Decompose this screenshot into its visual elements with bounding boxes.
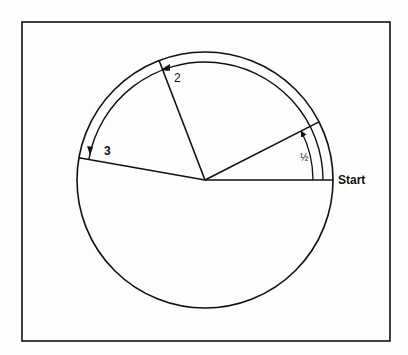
radius-line-2 (159, 61, 205, 181)
radius-line-1 (205, 122, 319, 180)
radius-line-3 (79, 158, 205, 180)
rotation-diagram: 2 3 ½ Start (0, 0, 408, 355)
arrowhead-3-icon (87, 146, 93, 155)
label-step-half: ½ (300, 152, 309, 163)
label-start: Start (338, 173, 365, 187)
label-step-2: 2 (174, 71, 181, 85)
label-step-3: 3 (104, 144, 111, 158)
band-arc (89, 62, 323, 180)
